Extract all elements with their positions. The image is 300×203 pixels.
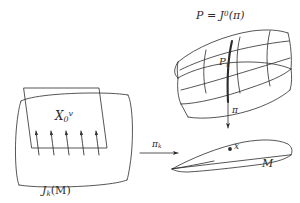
label-vertical-field: X0v [55, 110, 73, 124]
fibre-px-line [228, 41, 232, 102]
base-manifold-shape [172, 140, 292, 172]
vertical-vector-field [36, 131, 99, 155]
label-base-point: x [234, 142, 239, 151]
label-pi: π [232, 106, 238, 115]
diagram-vector-layer [0, 0, 300, 203]
label-pi-k: πk [152, 140, 162, 149]
figure-canvas: X0v Jk(M) πk P = J0(π) Px π x M [0, 0, 300, 203]
base-point-marker [228, 147, 232, 151]
label-manifold-m: M [262, 158, 273, 169]
label-total-space-title: P = J0(π) [196, 10, 244, 21]
label-jet-space: Jk(M) [42, 185, 71, 197]
jet-space-sheet [15, 93, 132, 187]
label-fibre-px: Px [219, 57, 229, 68]
